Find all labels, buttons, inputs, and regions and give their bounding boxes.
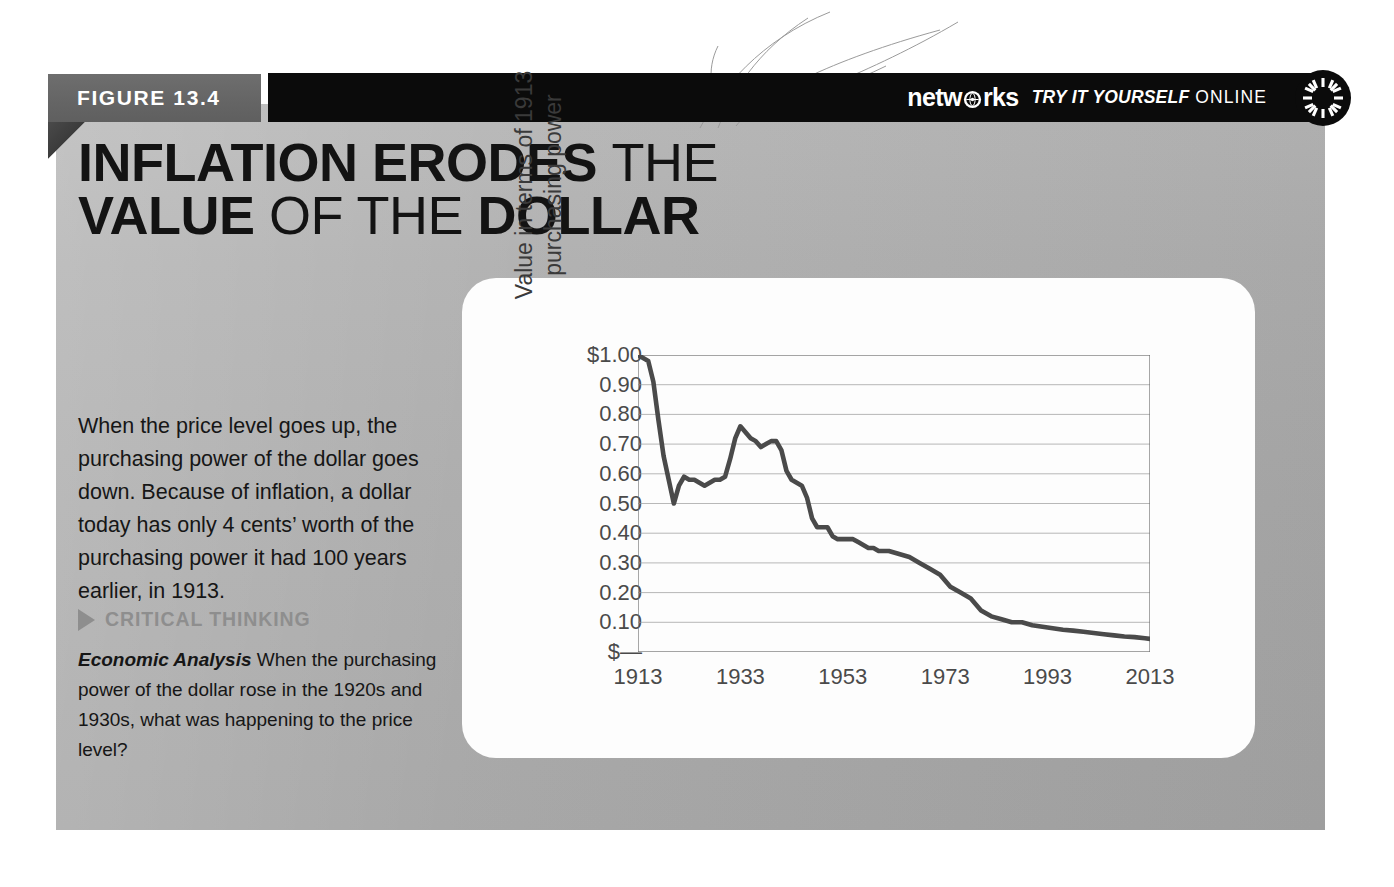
x-tick-label: 1913	[614, 664, 663, 690]
y-axis-title: Value in terms of 1913 purchasing power	[510, 40, 552, 330]
networks-logo: netwrks	[907, 85, 1018, 110]
y-tick-label: 0.50	[599, 491, 642, 517]
critical-thinking-heading: CRITICAL THINKING	[78, 608, 438, 631]
question-label: Economic Analysis	[78, 649, 252, 670]
y-tick-label: 0.90	[599, 372, 642, 398]
page-title: INFLATION ERODES THE VALUE OF THE DOLLAR	[78, 136, 898, 243]
y-tick-label: $—	[608, 639, 642, 665]
y-axis-title-line2: purchasing power	[540, 94, 566, 276]
title-light-2: OF THE	[269, 185, 478, 245]
critical-thinking-label: CRITICAL THINKING	[105, 608, 311, 631]
y-tick-label: 0.20	[599, 580, 642, 606]
y-tick-label: 0.10	[599, 609, 642, 635]
x-axis-ticks: 191319331953197319932013	[462, 664, 1255, 704]
chart-card: Value in terms of 1913 purchasing power …	[462, 278, 1255, 758]
y-axis-title-line1: Value in terms of 1913	[511, 71, 537, 299]
x-tick-label: 1933	[716, 664, 765, 690]
y-tick-label: 0.40	[599, 520, 642, 546]
plot-area	[638, 355, 1150, 652]
y-tick-label: 0.80	[599, 401, 642, 427]
x-tick-label: 2013	[1126, 664, 1175, 690]
networks-logo-pre: netw	[907, 83, 962, 111]
tagline-italic: TRY IT YOURSELF	[1032, 87, 1190, 107]
try-it-yourself-online-label[interactable]: TRY IT YOURSELF ONLINE	[1032, 87, 1267, 108]
y-tick-label: 0.70	[599, 431, 642, 457]
x-tick-label: 1973	[921, 664, 970, 690]
tagline-online: ONLINE	[1189, 87, 1267, 107]
header-bar: netwrks TRY IT YOURSELF ONLINE	[268, 73, 1325, 122]
y-tick-label: 0.30	[599, 550, 642, 576]
figure-number-tab: FIGURE 13.4	[48, 74, 261, 122]
figure-number-label: FIGURE 13.4	[48, 86, 221, 110]
question-block: Economic Analysis When the purchasing po…	[78, 645, 438, 765]
globe-icon	[963, 90, 982, 109]
networks-logo-post: rks	[983, 83, 1019, 111]
lead-paragraph: When the price level goes up, the purcha…	[78, 410, 423, 608]
figure-page: netwrks TRY IT YOURSELF ONLINE	[0, 0, 1394, 887]
title-bold-2: VALUE	[78, 185, 269, 245]
x-tick-label: 1953	[818, 664, 867, 690]
triangle-icon	[78, 609, 95, 631]
x-tick-label: 1993	[1023, 664, 1072, 690]
starburst-icon[interactable]	[1295, 70, 1351, 126]
y-tick-label: 0.60	[599, 461, 642, 487]
footer-url[interactable]: connected.mcgraw-hill.com	[1072, 833, 1322, 855]
line-chart: Value in terms of 1913 purchasing power …	[462, 278, 1255, 758]
title-light-1: THE	[612, 132, 719, 192]
y-tick-label: $1.00	[587, 342, 642, 368]
